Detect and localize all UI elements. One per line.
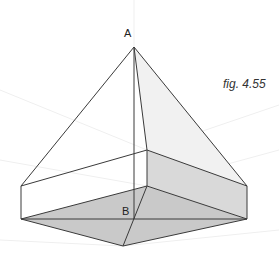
label-apex-a: A	[124, 27, 131, 39]
figure-canvas: A B fig. 4.55	[0, 0, 279, 264]
figure-caption: fig. 4.55	[223, 77, 266, 91]
pyramid-diagram	[0, 0, 279, 264]
label-point-b: B	[122, 205, 129, 217]
